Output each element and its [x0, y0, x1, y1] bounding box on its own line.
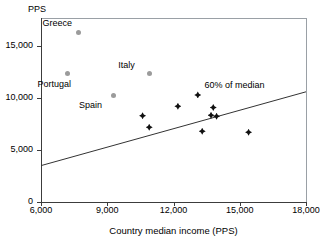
- data-point-label: Spain: [79, 100, 102, 110]
- data-point: [65, 71, 70, 76]
- x-axis-title: Country median income (PPS): [41, 225, 306, 236]
- data-point-label: Greece: [43, 18, 73, 28]
- trend-line: [0, 0, 323, 245]
- scatter-chart: PPS 05,00010,00015,000 6,0009,00012,0001…: [0, 0, 323, 245]
- trend-line-label: 60% of median: [204, 80, 264, 90]
- data-point-label: Italy: [118, 60, 135, 70]
- data-point: [147, 71, 152, 76]
- data-point-label: Portugal: [38, 79, 72, 89]
